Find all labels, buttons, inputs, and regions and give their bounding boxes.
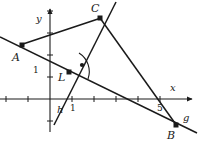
point-label-B: B — [167, 130, 175, 141]
x-axis-label: x — [170, 83, 176, 93]
figure-canvas — [0, 0, 199, 144]
line-g — [0, 37, 197, 133]
point-label-A: A — [12, 52, 20, 63]
point-A-marker — [20, 43, 25, 48]
segment-ac — [20, 18, 101, 45]
x-tick-label-5: 5 — [157, 104, 163, 113]
point-B-marker — [174, 123, 179, 128]
point-label-L: L — [58, 72, 65, 83]
geometry-figure: y x 1 5 1 A C L B g h — [0, 0, 199, 144]
line-label-g: g — [183, 113, 189, 123]
segment-cb — [100, 18, 177, 126]
angle-dot-icon — [80, 63, 84, 67]
point-L-marker — [67, 70, 72, 75]
point-label-C: C — [91, 3, 99, 14]
x-tick-label-1: 1 — [70, 104, 76, 113]
point-C-marker — [98, 16, 103, 21]
line-label-h: h — [57, 105, 63, 115]
y-tick-label-1: 1 — [33, 66, 39, 75]
y-axis-label: y — [36, 14, 42, 24]
